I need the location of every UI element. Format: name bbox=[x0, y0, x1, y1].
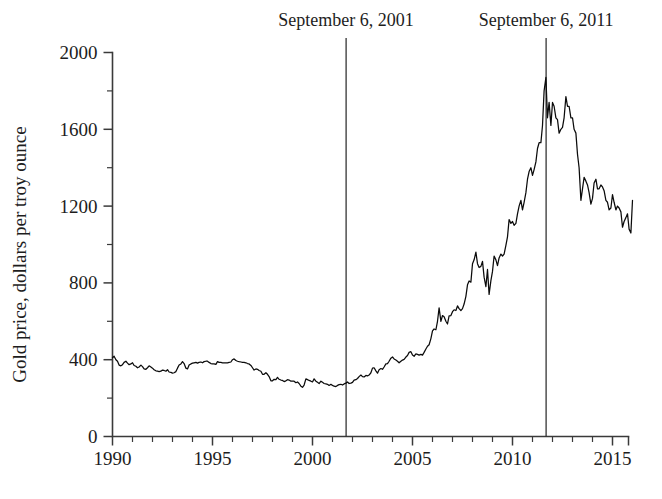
y-tick-label: 2000 bbox=[60, 42, 98, 63]
y-tick-label: 1200 bbox=[60, 196, 98, 217]
x-tick-label: 2005 bbox=[394, 448, 432, 469]
y-axis-title: Gold price, dollars per troy ounce bbox=[9, 126, 30, 382]
y-tick-label: 800 bbox=[69, 272, 98, 293]
chart-background bbox=[0, 0, 662, 499]
x-tick-label: 2000 bbox=[294, 448, 332, 469]
x-tick-label: 1995 bbox=[194, 448, 232, 469]
y-tick-label: 0 bbox=[88, 426, 98, 447]
annotation-label: September 6, 2001 bbox=[278, 10, 413, 30]
x-tick-label: 2015 bbox=[594, 448, 632, 469]
y-tick-label: 1600 bbox=[60, 119, 98, 140]
gold-price-chart-figure: 199019952000200520102015 040080012001600… bbox=[0, 0, 662, 499]
x-tick-label: 1990 bbox=[94, 448, 132, 469]
y-tick-label: 400 bbox=[69, 349, 98, 370]
x-tick-label: 2010 bbox=[494, 448, 532, 469]
annotation-label: September 6, 2011 bbox=[479, 10, 614, 30]
chart-svg: 199019952000200520102015 040080012001600… bbox=[0, 0, 662, 499]
